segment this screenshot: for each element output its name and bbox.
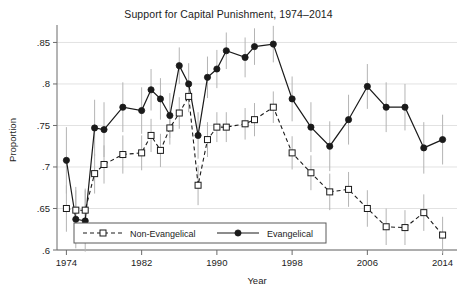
- data-point: [214, 66, 220, 72]
- y-tick-label: .6: [42, 245, 50, 256]
- data-point: [440, 232, 446, 238]
- data-point: [176, 110, 182, 116]
- legend-label-evangelical: Evangelical: [267, 229, 313, 239]
- x-tick-label: 1982: [131, 257, 152, 268]
- data-point: [402, 225, 408, 231]
- data-point: [327, 143, 333, 149]
- data-point: [157, 147, 163, 153]
- data-point: [214, 124, 220, 130]
- data-point: [63, 157, 69, 163]
- x-tick-label: 2006: [357, 257, 378, 268]
- data-point: [73, 216, 79, 222]
- data-point: [345, 117, 351, 123]
- data-point: [82, 207, 88, 213]
- data-point: [195, 182, 201, 188]
- data-point: [346, 186, 352, 192]
- data-point: [101, 161, 107, 167]
- chart-legend: Non-EvangelicalEvangelical: [74, 223, 326, 243]
- legend-label-non-evangelical: Non-Evangelical: [130, 229, 196, 239]
- data-point: [73, 207, 79, 213]
- gridlines-group: [57, 42, 457, 250]
- data-point: [383, 224, 389, 230]
- chart-plot-area: .6.65.7.75.8.85197419821990199820062014 …: [0, 0, 457, 297]
- legend-marker-evangelical: [235, 230, 241, 236]
- data-point: [270, 104, 276, 110]
- data-point: [223, 48, 229, 54]
- x-tick-label: 1990: [206, 257, 227, 268]
- data-point: [364, 205, 370, 211]
- data-point: [120, 104, 126, 110]
- data-point: [308, 124, 314, 130]
- y-tick-label: .8: [42, 78, 50, 89]
- data-point: [289, 96, 295, 102]
- confidence-interval-bars: [66, 26, 442, 253]
- y-tick-label: .7: [42, 161, 50, 172]
- x-tick-label: 1974: [56, 257, 77, 268]
- data-point: [251, 44, 257, 50]
- data-point: [92, 125, 98, 131]
- x-axis-title: Year: [247, 275, 266, 286]
- chart-figure: Support for Capital Punishment, 1974–201…: [0, 0, 457, 297]
- data-point: [242, 121, 248, 127]
- data-point: [252, 117, 258, 123]
- data-point: [364, 83, 370, 89]
- x-tick-label: 2014: [432, 257, 453, 268]
- data-point: [148, 132, 154, 138]
- data-point: [421, 210, 427, 216]
- data-point: [167, 112, 173, 118]
- data-point: [383, 104, 389, 110]
- y-tick-label: .65: [37, 203, 50, 214]
- data-point: [204, 137, 210, 143]
- data-point: [204, 74, 210, 80]
- data-point: [63, 205, 69, 211]
- data-point: [139, 150, 145, 156]
- data-point: [92, 171, 98, 177]
- data-point: [157, 96, 163, 102]
- x-tick-label: 1998: [282, 257, 303, 268]
- data-point: [242, 54, 248, 60]
- legend-marker-non-evangelical: [100, 230, 106, 236]
- data-point: [195, 132, 201, 138]
- data-point: [186, 81, 192, 87]
- data-point: [186, 93, 192, 99]
- y-tick-label: .85: [37, 37, 50, 48]
- data-point: [148, 87, 154, 93]
- data-point: [101, 127, 107, 133]
- data-point: [327, 189, 333, 195]
- data-point: [167, 125, 173, 131]
- data-point: [289, 150, 295, 156]
- data-point: [402, 104, 408, 110]
- data-point: [223, 124, 229, 130]
- data-point: [308, 170, 314, 176]
- data-point: [439, 136, 445, 142]
- data-point: [421, 145, 427, 151]
- data-point: [139, 107, 145, 113]
- data-point: [120, 152, 126, 158]
- y-tick-label: .75: [37, 120, 50, 131]
- y-axis-title: Proportion: [7, 118, 18, 162]
- data-point: [176, 63, 182, 69]
- data-point: [270, 41, 276, 47]
